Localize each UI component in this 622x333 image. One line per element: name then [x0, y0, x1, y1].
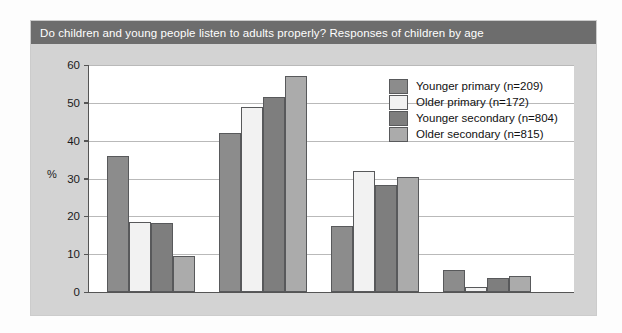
bar-group — [107, 65, 195, 292]
bar — [285, 76, 307, 292]
legend-label: Younger primary (n=209) — [416, 80, 543, 92]
y-axis-title: % — [47, 168, 57, 180]
legend-swatch — [389, 111, 408, 126]
y-axis-tick-label: 30 — [67, 173, 80, 185]
y-axis-tick — [84, 178, 89, 180]
bar — [443, 270, 465, 292]
y-axis-tick-label: 60 — [67, 59, 80, 71]
bar — [151, 223, 173, 292]
bar — [509, 276, 531, 292]
legend-swatch — [389, 79, 408, 94]
bar — [353, 171, 375, 292]
bar — [129, 222, 151, 292]
legend-item: Younger secondary (n=804) — [389, 110, 558, 126]
y-axis-tick — [84, 254, 89, 256]
legend-label: Older secondary (n=815) — [416, 128, 544, 140]
bar — [173, 256, 195, 292]
chart-legend: Younger primary (n=209)Older primary (n=… — [389, 78, 558, 142]
y-axis-tick-label: 10 — [67, 248, 80, 260]
y-axis-tick-label: 40 — [67, 135, 80, 147]
chart-figure: Do children and young people listen to a… — [0, 0, 622, 333]
bar — [375, 185, 397, 292]
legend-item: Older primary (n=172) — [389, 94, 558, 110]
bar — [263, 97, 285, 292]
legend-label: Younger secondary (n=804) — [416, 112, 558, 124]
legend-item: Older secondary (n=815) — [389, 126, 558, 142]
y-axis-tick-label: 0 — [74, 286, 80, 298]
legend-swatch — [389, 95, 408, 110]
legend-label: Older primary (n=172) — [416, 96, 529, 108]
legend-swatch — [389, 127, 408, 142]
y-axis-tick-label: 20 — [67, 210, 80, 222]
bar — [397, 177, 419, 292]
y-axis-tick — [84, 292, 89, 294]
y-axis-tick — [84, 216, 89, 218]
bar — [107, 156, 129, 292]
bar — [219, 133, 241, 292]
y-axis-tick — [84, 140, 89, 142]
chart-title-bar: Do children and young people listen to a… — [31, 21, 596, 44]
bar — [241, 107, 263, 292]
bar-group — [219, 65, 307, 292]
y-axis-tick — [84, 102, 89, 104]
legend-item: Younger primary (n=209) — [389, 78, 558, 94]
bar — [465, 287, 487, 292]
bar — [331, 226, 353, 292]
y-axis-tick — [84, 65, 89, 67]
y-axis-tick-label: 50 — [67, 97, 80, 109]
chart-title: Do children and young people listen to a… — [31, 27, 484, 39]
bar — [487, 278, 509, 292]
